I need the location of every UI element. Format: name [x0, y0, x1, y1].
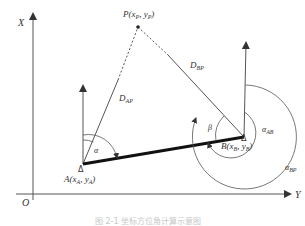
line-pb-dashed	[138, 27, 168, 55]
point-a-label: A(xA, yA)	[63, 174, 95, 185]
angle-alpha-label: α	[94, 146, 99, 155]
angle-alpha-bp-label: αBP	[285, 163, 297, 173]
distance-bp-label: DBP	[189, 60, 204, 71]
station-a-marker: Δ	[78, 165, 84, 174]
arc-alpha-ap	[83, 140, 94, 142]
arc-alpha	[83, 134, 117, 158]
angle-beta-label: β	[207, 123, 212, 132]
point-p-label: P(xP, yP)	[122, 9, 154, 20]
angle-alpha-ab-label: αAB	[262, 125, 274, 135]
figure-caption: 图 2-1 坐标方位角计算示意图	[95, 216, 201, 226]
x-axis-label: X	[17, 17, 25, 28]
arc-beta	[216, 116, 224, 141]
distance-ap-label: DAP	[118, 93, 133, 104]
line-ap-dashed	[118, 27, 138, 80]
line-ap-solid	[83, 80, 118, 164]
origin-label: O	[22, 197, 29, 208]
azimuth-diagram: X Y O P(xP, yP) DAP DBP α β αAB αBP	[0, 0, 305, 226]
north-line-b	[244, 43, 246, 137]
y-axis-label: Y	[295, 189, 302, 200]
point-b-label: B(xB, yB)	[221, 141, 252, 152]
point-p	[136, 25, 140, 29]
line-pb-solid	[168, 55, 244, 137]
